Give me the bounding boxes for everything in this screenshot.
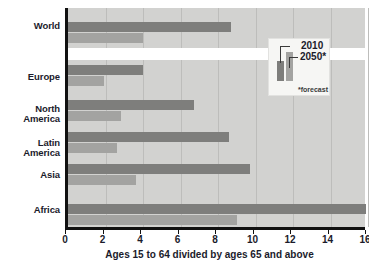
chart-figure: World Europe North America Latin America… bbox=[0, 0, 369, 266]
gridline bbox=[181, 8, 182, 227]
gridline bbox=[331, 8, 332, 227]
x-tick-label: 10 bbox=[240, 234, 266, 245]
bar-north-america-2010 bbox=[68, 100, 194, 110]
legend-footnote: *forecast bbox=[298, 86, 328, 93]
bar-europe-2050 bbox=[68, 76, 104, 86]
bar-north-america-2050 bbox=[68, 111, 121, 121]
x-tick-label: 14 bbox=[315, 234, 341, 245]
category-label-europe: Europe bbox=[2, 72, 60, 83]
bar-world-2010 bbox=[68, 22, 231, 32]
bar-asia-2050 bbox=[68, 175, 136, 185]
legend-leader-line-2050-vertical bbox=[289, 57, 290, 68]
legend-label-2010: 2010 bbox=[301, 40, 323, 51]
category-label-world: World bbox=[2, 21, 60, 32]
legend-label-2050: 2050* bbox=[300, 51, 326, 62]
bar-world-2050 bbox=[68, 33, 143, 43]
category-label-asia: Asia bbox=[2, 170, 60, 181]
x-tick-label: 12 bbox=[277, 234, 303, 245]
x-tick-label: 2 bbox=[90, 234, 116, 245]
x-tick-label: 4 bbox=[127, 234, 153, 245]
x-tick-label: 6 bbox=[165, 234, 191, 245]
legend-swatch-2010 bbox=[277, 61, 284, 81]
x-tick-label: 8 bbox=[202, 234, 228, 245]
bar-asia-2010 bbox=[68, 164, 250, 174]
category-label-north-america-line2: America bbox=[2, 114, 60, 125]
x-axis-title: Ages 15 to 64 divided by ages 65 and abo… bbox=[0, 249, 369, 260]
bar-africa-2010 bbox=[68, 204, 366, 214]
gridline bbox=[256, 8, 257, 227]
x-tick-label: 0 bbox=[52, 234, 78, 245]
gridline bbox=[218, 8, 219, 227]
bar-latin-america-2010 bbox=[68, 132, 229, 142]
bar-europe-2010 bbox=[68, 65, 143, 75]
x-tick-label: 16 bbox=[352, 234, 369, 245]
gridline bbox=[143, 8, 144, 227]
category-label-africa: Africa bbox=[2, 205, 60, 216]
bar-latin-america-2050 bbox=[68, 143, 117, 153]
bar-africa-2050 bbox=[68, 215, 237, 225]
legend-leader-line-2050-horizontal bbox=[289, 57, 298, 58]
chart-legend: 2010 2050* *forecast bbox=[268, 38, 330, 96]
legend-leader-line-2010-horizontal bbox=[280, 46, 290, 47]
category-label-latin-america-line2: America bbox=[2, 148, 60, 159]
legend-leader-line-2010-vertical bbox=[280, 46, 281, 63]
